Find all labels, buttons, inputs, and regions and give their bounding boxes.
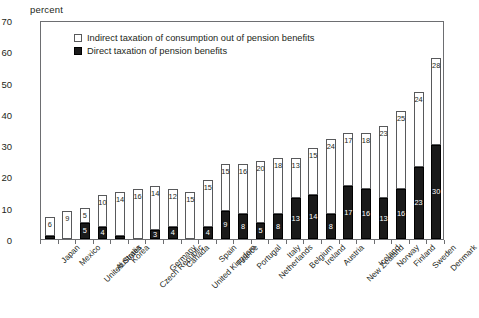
bar-segment-indirect[interactable]: 16 — [133, 189, 143, 239]
legend-item-indirect: Indirect taxation of consumption out of … — [74, 33, 314, 43]
bar-group[interactable]: 55 — [80, 208, 90, 239]
bar-value-label: 3 — [153, 231, 157, 238]
y-axis-tick-30: 30 — [0, 141, 12, 152]
bar-segment-indirect[interactable]: 24 — [414, 92, 424, 167]
bar-group[interactable]: 9 — [62, 211, 72, 239]
bar-segment-indirect[interactable]: 15 — [185, 192, 195, 239]
bar-segment-indirect[interactable]: 9 — [62, 211, 72, 239]
bar-value-label: 16 — [133, 193, 141, 200]
bar-segment-direct[interactable]: 5 — [80, 223, 90, 239]
bar-value-label: 16 — [362, 210, 370, 217]
bar-group[interactable]: 188 — [273, 158, 283, 239]
bar-value-label: 20 — [256, 165, 264, 172]
bar-segment-indirect[interactable]: 10 — [98, 195, 108, 226]
bar-group[interactable]: 124 — [168, 189, 178, 239]
bar-group[interactable]: 1514 — [308, 148, 318, 239]
bar-group[interactable]: 205 — [256, 161, 266, 239]
bar-segment-direct[interactable] — [45, 236, 55, 239]
bar-segment-direct[interactable]: 9 — [221, 211, 231, 239]
bar-group[interactable]: 16 — [133, 189, 143, 239]
bar-value-label: 15 — [221, 168, 229, 175]
bar-group[interactable]: 6 — [45, 217, 55, 239]
bar-value-label: 18 — [274, 162, 282, 169]
bar-group[interactable]: 104 — [98, 195, 108, 239]
bar-segment-direct[interactable]: 17 — [343, 186, 353, 239]
bar-segment-indirect[interactable]: 17 — [343, 133, 353, 186]
bar-segment-direct[interactable]: 23 — [414, 167, 424, 239]
bar-segment-indirect[interactable]: 18 — [361, 133, 371, 189]
bar-segment-direct[interactable]: 5 — [256, 223, 266, 239]
bar-segment-indirect[interactable]: 13 — [291, 158, 301, 199]
y-axis-title: percent — [30, 4, 63, 15]
bar-segment-indirect[interactable]: 14 — [150, 186, 160, 230]
y-axis-tick-70: 70 — [0, 16, 12, 27]
bar-group[interactable]: 2313 — [379, 126, 389, 239]
legend-item-direct: Direct taxation of pension benefits — [74, 46, 314, 56]
bar-value-label: 15 — [309, 152, 317, 159]
bar-segment-indirect[interactable]: 16 — [238, 164, 248, 214]
bar-segment-indirect[interactable]: 23 — [379, 126, 389, 198]
bar-value-label: 28 — [432, 62, 440, 69]
bar-segment-indirect[interactable]: 24 — [326, 139, 336, 214]
bar-segment-indirect[interactable]: 6 — [45, 217, 55, 236]
bar-segment-direct[interactable]: 4 — [203, 227, 213, 240]
bar-segment-direct[interactable]: 13 — [291, 198, 301, 239]
x-axis-label-portugal: Portugal — [255, 243, 283, 271]
bar-group[interactable]: 248 — [326, 139, 336, 239]
bar-segment-direct[interactable]: 8 — [273, 214, 283, 239]
bar-value-label: 4 — [100, 229, 104, 236]
bar-segment-direct[interactable]: 4 — [168, 227, 178, 240]
bar-group[interactable]: 15 — [185, 192, 195, 239]
bar-segment-indirect[interactable]: 14 — [115, 192, 125, 236]
bar-segment-indirect[interactable]: 5 — [80, 208, 90, 224]
bar-group[interactable]: 1313 — [291, 158, 301, 239]
bar-group[interactable]: 1816 — [361, 133, 371, 239]
bar-value-label: 9 — [65, 215, 69, 222]
bar-value-label: 23 — [379, 130, 387, 137]
bar-segment-indirect[interactable]: 15 — [308, 148, 318, 195]
bar-segment-direct[interactable]: 14 — [308, 195, 318, 239]
bar-group[interactable]: 168 — [238, 164, 248, 239]
bar-value-label: 13 — [292, 215, 300, 222]
bar-segment-indirect[interactable]: 15 — [221, 164, 231, 211]
bar-value-label: 4 — [206, 229, 210, 236]
bar-segment-direct[interactable] — [115, 236, 125, 239]
y-axis-tick-40: 40 — [0, 109, 12, 120]
bar-value-label: 5 — [258, 227, 262, 234]
bar-segment-indirect[interactable]: 28 — [431, 58, 441, 146]
bar-value-label: 8 — [276, 223, 280, 230]
bar-segment-indirect[interactable]: 18 — [273, 158, 283, 214]
bar-segment-indirect[interactable]: 12 — [168, 189, 178, 227]
bar-value-label: 13 — [379, 215, 387, 222]
x-tick-mark — [444, 240, 445, 244]
bar-segment-direct[interactable]: 16 — [361, 189, 371, 239]
bar-value-label: 4 — [171, 229, 175, 236]
bar-segment-direct[interactable]: 4 — [98, 227, 108, 240]
bar-segment-direct[interactable]: 13 — [379, 198, 389, 239]
bar-segment-indirect[interactable]: 20 — [256, 161, 266, 224]
legend-label-direct: Direct taxation of pension benefits — [87, 46, 227, 56]
bar-segment-direct[interactable]: 3 — [150, 230, 160, 239]
bar-segment-direct[interactable]: 8 — [238, 214, 248, 239]
bar-value-label: 8 — [329, 223, 333, 230]
x-axis-labels: JapanMexicoUnited StatesAustraliaKoreaCz… — [40, 243, 444, 317]
bar-group[interactable]: 2830 — [431, 58, 441, 239]
bar-segment-direct[interactable]: 30 — [431, 145, 441, 239]
legend-label-indirect: Indirect taxation of consumption out of … — [87, 33, 314, 43]
bar-segment-indirect[interactable]: 25 — [396, 111, 406, 189]
bar-segment-direct[interactable]: 8 — [326, 214, 336, 239]
bar-segment-direct[interactable]: 16 — [396, 189, 406, 239]
bar-group[interactable]: 2423 — [414, 92, 424, 239]
bar-segment-indirect[interactable]: 15 — [203, 180, 213, 227]
bar-group[interactable]: 143 — [150, 186, 160, 239]
bar-value-label: 30 — [432, 188, 440, 195]
bar-group[interactable]: 14 — [115, 192, 125, 239]
bar-group[interactable]: 2516 — [396, 111, 406, 239]
bar-value-label: 16 — [239, 168, 247, 175]
x-axis-label-mexico: Mexico — [78, 243, 103, 268]
bar-group[interactable]: 154 — [203, 180, 213, 239]
bar-value-label: 24 — [415, 96, 423, 103]
bar-group[interactable]: 1717 — [343, 133, 353, 239]
bar-group[interactable]: 159 — [221, 164, 231, 239]
bar-value-label: 5 — [83, 227, 87, 234]
